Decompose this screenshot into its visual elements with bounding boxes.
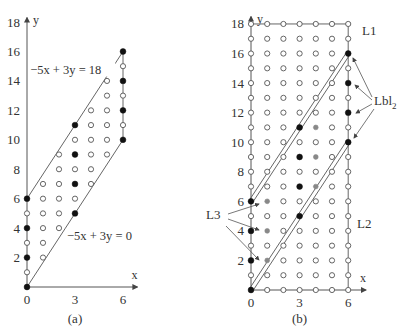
filled-lattice-point: [120, 78, 126, 84]
open-lattice-point: [329, 36, 334, 41]
open-lattice-point: [329, 228, 334, 233]
open-lattice-point: [346, 258, 351, 263]
filled-lattice-point: [345, 80, 351, 86]
open-lattice-point: [24, 211, 29, 216]
open-lattice-point: [346, 214, 351, 219]
open-lattice-point: [346, 125, 351, 130]
open-lattice-point: [313, 199, 318, 204]
x-tick-label: 3: [296, 295, 303, 310]
open-lattice-point: [248, 36, 253, 41]
open-lattice-point: [329, 243, 334, 248]
open-lattice-point: [281, 214, 286, 219]
open-lattice-point: [248, 184, 253, 189]
open-lattice-point: [72, 196, 77, 201]
filled-lattice-point: [248, 198, 254, 204]
open-lattice-point: [56, 226, 61, 231]
open-lattice-point: [297, 287, 302, 292]
filled-lattice-point: [24, 255, 30, 261]
open-lattice-point: [346, 243, 351, 248]
open-lattice-point: [265, 154, 270, 159]
y-tick-label: 14: [7, 73, 21, 88]
open-lattice-point: [281, 154, 286, 159]
open-lattice-point: [281, 228, 286, 233]
open-lattice-point: [265, 80, 270, 85]
open-lattice-point: [248, 51, 253, 56]
x-axis-label: x: [131, 268, 137, 282]
y-tick-label: 8: [238, 164, 245, 179]
x-tick-label: 3: [72, 292, 79, 307]
open-lattice-point: [313, 228, 318, 233]
y-tick-label: 12: [231, 105, 244, 120]
open-lattice-point: [248, 214, 253, 219]
filled-lattice-point: [72, 211, 78, 217]
open-lattice-point: [56, 211, 61, 216]
open-lattice-point: [329, 80, 334, 85]
open-lattice-point: [297, 258, 302, 263]
open-lattice-point: [265, 51, 270, 56]
open-lattice-point: [329, 95, 334, 100]
panel-caption: (b): [292, 311, 307, 326]
open-lattice-point: [313, 258, 318, 263]
open-lattice-point: [72, 167, 77, 172]
open-lattice-point: [346, 66, 351, 71]
open-lattice-point: [329, 51, 334, 56]
y-tick-label: 6: [14, 191, 21, 206]
open-lattice-point: [265, 214, 270, 219]
open-lattice-point: [265, 140, 270, 145]
open-lattice-point: [346, 169, 351, 174]
open-lattice-point: [88, 122, 93, 127]
open-lattice-point: [313, 140, 318, 145]
filled-lattice-point: [345, 139, 351, 145]
gray-lattice-point: [313, 184, 318, 189]
open-lattice-point: [24, 270, 29, 275]
open-lattice-point: [346, 36, 351, 41]
open-lattice-point: [88, 108, 93, 113]
panel-a: xy03624681012141618−5x + 3y = 18−5x + 3y…: [7, 13, 145, 326]
open-lattice-point: [56, 181, 61, 186]
open-lattice-point: [313, 66, 318, 71]
open-lattice-point: [281, 243, 286, 248]
open-lattice-point: [329, 154, 334, 159]
filled-lattice-point: [72, 152, 78, 158]
label-L1: L1: [362, 23, 376, 38]
open-lattice-point: [104, 78, 109, 83]
open-lattice-point: [313, 243, 318, 248]
open-lattice-point: [281, 199, 286, 204]
open-lattice-point: [104, 152, 109, 157]
equation-label: −5x + 3y = 18: [30, 63, 101, 77]
open-lattice-point: [281, 169, 286, 174]
open-lattice-point: [297, 51, 302, 56]
open-lattice-point: [329, 273, 334, 278]
open-lattice-point: [281, 287, 286, 292]
open-lattice-point: [40, 181, 45, 186]
gray-lattice-point: [265, 258, 270, 263]
open-lattice-point: [346, 228, 351, 233]
filled-lattice-point: [297, 154, 303, 160]
open-lattice-point: [297, 95, 302, 100]
open-lattice-point: [88, 137, 93, 142]
open-lattice-point: [104, 93, 109, 98]
open-lattice-point: [297, 36, 302, 41]
open-lattice-point: [281, 80, 286, 85]
open-lattice-point: [297, 243, 302, 248]
open-lattice-point: [248, 140, 253, 145]
open-lattice-point: [329, 110, 334, 115]
equation-label: −5x + 3y = 0: [67, 229, 132, 243]
open-lattice-point: [313, 287, 318, 292]
gray-lattice-point: [313, 125, 318, 130]
open-lattice-point: [313, 95, 318, 100]
open-lattice-point: [88, 167, 93, 172]
open-lattice-point: [248, 21, 253, 26]
open-lattice-point: [281, 110, 286, 115]
open-lattice-point: [40, 196, 45, 201]
open-lattice-point: [329, 258, 334, 263]
filled-lattice-point: [345, 110, 351, 116]
panel-b: xy03624681012141618L1L2L3Lbl2(b): [206, 12, 397, 326]
open-lattice-point: [329, 66, 334, 71]
open-lattice-point: [313, 110, 318, 115]
open-lattice-point: [346, 95, 351, 100]
gray-lattice-point: [265, 199, 270, 204]
open-lattice-point: [40, 226, 45, 231]
open-lattice-point: [248, 125, 253, 130]
x-tick-label: 0: [24, 292, 31, 307]
